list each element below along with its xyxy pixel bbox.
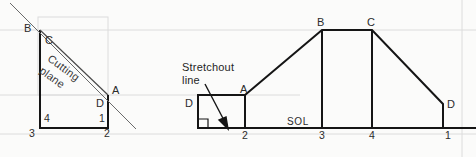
left-view-label-a: A bbox=[112, 85, 120, 97]
left-view-label-b: B bbox=[24, 23, 32, 35]
sol-label: SOL bbox=[287, 117, 309, 128]
right-view-label-c: C bbox=[367, 17, 375, 29]
right-view-label-d-left: D bbox=[185, 98, 193, 110]
development-upper-profile bbox=[245, 30, 443, 128]
right-view-label-a: A bbox=[240, 84, 248, 96]
right-view-label-b: B bbox=[317, 17, 325, 29]
right-angle-marker bbox=[198, 119, 208, 128]
right-angle-square bbox=[198, 119, 208, 128]
left-view-number-1: 1 bbox=[99, 113, 105, 124]
left-view-number-2: 2 bbox=[104, 128, 110, 139]
left-view-label-c: C bbox=[45, 35, 53, 47]
right-view-label-d-right: D bbox=[447, 99, 455, 111]
left-view-label-d: D bbox=[96, 98, 104, 110]
right-view-number-2: 2 bbox=[242, 130, 248, 141]
left-view-number-4: 4 bbox=[44, 113, 50, 124]
right-view-number-4: 4 bbox=[369, 130, 375, 141]
right-view-outline bbox=[198, 30, 476, 128]
engineering-drawing-canvas: B C A D 4 1 3 2 Cutting plane Stretchout… bbox=[0, 0, 476, 157]
stretchout-note-line1: Stretchout bbox=[182, 62, 234, 74]
stretchout-note-line2: line bbox=[182, 75, 200, 87]
right-view-number-1: 1 bbox=[445, 130, 451, 141]
right-view-number-3: 3 bbox=[319, 130, 325, 141]
left-view-number-3: 3 bbox=[29, 128, 35, 139]
